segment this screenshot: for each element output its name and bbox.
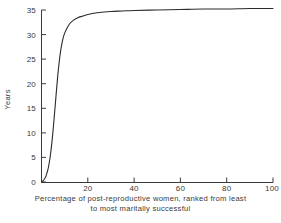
- x-axis-ticks: [88, 178, 273, 183]
- y-tick-label-0: 0: [20, 178, 36, 187]
- x-axis-label-line-2: to most maritally successful: [0, 204, 281, 214]
- y-tick-label-30: 30: [20, 31, 36, 40]
- data-series-line: [42, 8, 274, 182]
- y-tick-label-15: 15: [20, 104, 36, 113]
- x-tick-label-80: 80: [217, 184, 237, 193]
- chart-figure: 35 30 25 20 15 10 5 0 20 40 60 80 100 Ye…: [0, 0, 281, 223]
- y-axis-ticks: [42, 10, 47, 182]
- y-tick-label-25: 25: [20, 55, 36, 64]
- y-tick-label-5: 5: [20, 153, 36, 162]
- x-tick-label-40: 40: [124, 184, 144, 193]
- y-tick-label-20: 20: [20, 80, 36, 89]
- x-axis-label-line-1: Percentage of post-reproductive women, r…: [0, 194, 281, 204]
- y-axis-label: Years: [3, 83, 12, 117]
- x-tick-label-60: 60: [170, 184, 190, 193]
- x-axis-label: Percentage of post-reproductive women, r…: [0, 194, 281, 213]
- y-tick-label-10: 10: [20, 129, 36, 138]
- x-tick-label-20: 20: [78, 184, 98, 193]
- y-tick-label-35: 35: [20, 6, 36, 15]
- x-tick-label-100: 100: [262, 184, 281, 193]
